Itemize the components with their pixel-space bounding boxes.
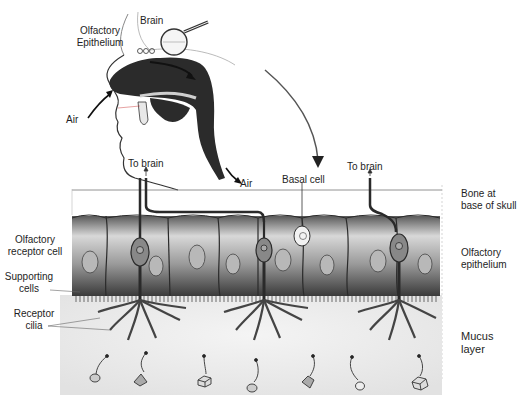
label-line: Receptor	[10, 308, 58, 320]
label-basal-cell: Basal cell	[282, 174, 325, 186]
label-bone-base-of-skull: Bone at base of skull	[461, 188, 517, 212]
olfactory-epithelium-cells	[72, 215, 440, 302]
label-line: Olfactory	[70, 25, 130, 37]
label-supporting-cells: Supporting cells	[0, 271, 58, 295]
label-line: Epithelium	[70, 37, 130, 49]
label-olfactory-receptor-cell: Olfactory receptor cell	[0, 234, 70, 258]
label-olfactory-epithelium-head: Olfactory Epithelium	[70, 25, 130, 49]
mucus-layer	[60, 295, 442, 395]
label-line: cells	[0, 283, 58, 295]
to-brain-arrows	[144, 167, 372, 176]
label-brain: Brain	[140, 15, 163, 27]
olfactory-diagram: Brain Olfactory Epithelium Air Air To br…	[0, 0, 526, 411]
basal-cell	[294, 182, 310, 246]
air-in-arrow	[88, 90, 113, 118]
label-mucus-layer: Mucus layer	[461, 330, 493, 356]
label-line: Supporting	[0, 271, 58, 283]
label-olfactory-epithelium-section: Olfactory epithelium	[461, 247, 507, 271]
label-line: cilia	[10, 320, 58, 332]
label-line: layer	[461, 343, 493, 356]
label-air-out: Air	[240, 178, 252, 190]
label-line: Mucus	[461, 330, 493, 343]
magnifying-glass-icon	[161, 22, 208, 55]
diagram-artwork	[0, 0, 526, 411]
label-line: epithelium	[461, 259, 507, 271]
label-to-brain-left: To brain	[128, 158, 164, 170]
label-line: Olfactory	[461, 247, 507, 259]
label-line: Olfactory	[0, 234, 70, 246]
label-air-in: Air	[66, 114, 78, 126]
label-to-brain-right: To brain	[347, 161, 383, 173]
label-line: receptor cell	[0, 246, 70, 258]
zoom-curve-arrow	[265, 70, 324, 168]
label-line: Bone at	[461, 188, 517, 200]
label-receptor-cilia: Receptor cilia	[10, 308, 58, 332]
label-line: base of skull	[461, 200, 517, 212]
